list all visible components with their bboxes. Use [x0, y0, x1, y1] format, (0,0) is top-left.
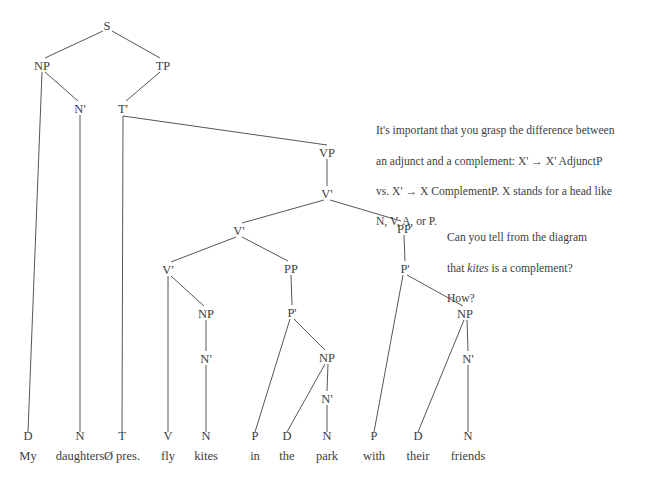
tree-branch-NP4-Nbar4	[467, 320, 468, 351]
terminal-word-D3: their	[407, 449, 431, 463]
tree-branch-S-NP1	[45, 31, 103, 58]
tree-branch-Vbar2-PP1	[242, 237, 288, 261]
question-note-italic-word: kites	[467, 262, 488, 275]
tree-branch-Pbar1-NP3	[294, 319, 325, 350]
tree-branch-NP4-D3	[418, 320, 464, 432]
adjunct-note-line-3: vs. X' → X ComplementP. X stands for a h…	[376, 185, 612, 198]
tree-node-Nbar1: N'	[74, 102, 85, 116]
tree-branch-PP2-Pbar2	[404, 235, 405, 261]
terminal-word-N3: park	[316, 449, 339, 463]
terminal-category-N1: N	[75, 429, 84, 443]
tree-node-Pbar2: P'	[400, 262, 409, 276]
terminal-category-T1: T	[118, 429, 126, 443]
tree-branch-PP1-Pbar1	[291, 275, 292, 305]
adjunct-note-line-1: It's important that you grasp the differ…	[376, 124, 615, 137]
tree-node-Pbar1: P'	[287, 306, 296, 320]
tree-node-Nbar3: N'	[321, 392, 332, 406]
tree-branch-NP3-D2	[287, 364, 325, 432]
terminal-category-D2: D	[282, 429, 291, 443]
tree-node-Vbar1: V'	[321, 187, 332, 201]
tree-node-NP1: NP	[34, 59, 50, 73]
complement-question-note: Can you tell from the diagram that kites…	[447, 215, 659, 306]
terminal-word-T1: Ø pres.	[104, 449, 140, 463]
tree-node-VP: VP	[319, 146, 335, 160]
tree-branch-S-TP	[112, 31, 160, 58]
terminal-category-P1: P	[252, 429, 259, 443]
terminal-category-N3: N	[322, 429, 331, 443]
terminal-category-V1: V	[163, 429, 172, 443]
tree-branch-Vbar1-Vbar2	[242, 200, 324, 223]
tree-branch-Vbar3-NP2	[171, 276, 204, 306]
terminal-word-P1: in	[250, 449, 260, 463]
tree-node-Vbar3: V'	[162, 263, 173, 277]
tree-branch-Tbar-T1	[122, 116, 123, 432]
tree-node-NP3: NP	[319, 351, 335, 365]
adjunct-note-line-4: N, V, A, or P.	[376, 215, 437, 228]
terminal-category-P2: P	[371, 429, 378, 443]
tree-branch-Pbar2-P2	[374, 275, 403, 432]
terminal-word-N2: kites	[194, 449, 218, 463]
terminal-category-N4: N	[463, 429, 472, 443]
tree-branch-Vbar2-Vbar3	[171, 237, 236, 262]
tree-branch-NP1-Nbar1	[45, 72, 78, 101]
tree-branch-NP1-D1	[28, 72, 42, 432]
adjunct-note-line-2: an adjunct and a complement: X' → X' Adj…	[376, 155, 602, 168]
terminal-word-V1: fly	[161, 449, 176, 463]
question-note-line-2-suffix: is a complement?	[489, 262, 573, 275]
question-note-line-1: Can you tell from the diagram	[447, 231, 587, 244]
tree-node-S: S	[104, 19, 111, 33]
question-note-line-2-prefix: that	[447, 262, 467, 275]
terminal-word-D2: the	[279, 449, 295, 463]
tree-node-Nbar2: N'	[200, 352, 211, 366]
tree-node-Nbar4: N'	[462, 352, 473, 366]
terminal-word-P2: with	[363, 449, 386, 463]
terminal-category-D1: D	[23, 429, 32, 443]
terminal-word-N4: friends	[451, 449, 486, 463]
tree-branch-Tbar-VP	[123, 116, 327, 145]
tree-branch-NP3-Nbar3	[327, 364, 328, 391]
tree-branch-TP-Tbar	[126, 72, 160, 101]
tree-node-PP1: PP	[284, 262, 298, 276]
tree-node-NP2: NP	[198, 307, 214, 321]
tree-node-Tbar: T'	[118, 102, 128, 116]
terminal-category-N2: N	[201, 429, 210, 443]
question-note-line-3: How?	[447, 292, 475, 305]
tree-branch-Pbar1-P1	[255, 319, 290, 432]
tree-terminal-group: DMyNdaughtersTØ pres.VflyNkitesPinDtheNp…	[19, 429, 485, 463]
tree-node-NP4: NP	[457, 307, 473, 321]
tree-node-Vbar2: V'	[233, 224, 244, 238]
terminal-category-D3: D	[413, 429, 422, 443]
terminal-word-D1: My	[19, 449, 37, 463]
tree-node-TP: TP	[156, 59, 171, 73]
terminal-word-N1: daughters	[56, 449, 105, 463]
adjunct-complement-note: It's important that you grasp the differ…	[376, 108, 658, 230]
